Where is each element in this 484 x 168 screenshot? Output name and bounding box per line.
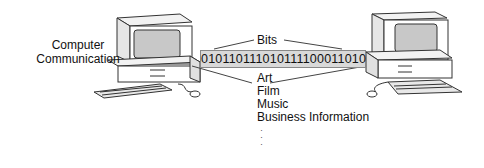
bit-stream: 010110111010111100011010: [200, 50, 366, 68]
right-computer-icon: [366, 12, 462, 97]
title-line-2: Communication: [18, 52, 138, 66]
content-type-list: Art Film Music Business Information: [257, 72, 369, 124]
continuation-dots: ···: [260, 127, 263, 148]
title-line-1: Computer: [18, 38, 138, 52]
diagram-canvas: [0, 0, 484, 168]
content-type-business-information: Business Information: [257, 111, 369, 124]
diagram-title: Computer Communication: [18, 38, 138, 66]
bits-label: Bits: [257, 33, 277, 47]
